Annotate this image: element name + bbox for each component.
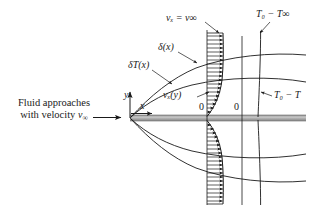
inflow-caption: Fluid approaches with velocity v∞	[14, 97, 94, 122]
velocity-profile-label: vₓ(y)	[163, 89, 181, 101]
inflow-caption-line1: Fluid approaches	[18, 97, 90, 108]
thermal-bl-thickness-label: δT(x)	[128, 59, 149, 71]
flat-plate	[130, 115, 306, 121]
temperature-curve-lower	[258, 120, 261, 205]
inflow-velocity-subscript: ∞	[82, 113, 87, 122]
y-axis-label: y	[124, 89, 128, 101]
velocity-profile-upper	[207, 33, 223, 117]
leader-delta-x	[178, 52, 197, 63]
temperature-curve-upper	[258, 31, 261, 117]
upper-boundary-layer-curves	[131, 54, 307, 117]
x-axis-label: x	[140, 100, 144, 112]
leader-delta-t-x	[152, 70, 172, 84]
velocity-bl-curve-lower	[131, 119, 307, 182]
velocity-bl-thickness-label: δ(x)	[158, 41, 174, 53]
leader-temp-far	[260, 22, 270, 33]
lower-boundary-layer-curves	[131, 119, 307, 182]
velocity-bl-curve-upper	[131, 54, 307, 117]
velocity-profile-lower	[207, 121, 223, 205]
freestream-velocity-label: vₓ = v∞	[166, 12, 197, 24]
origin-label-velocity: 0	[199, 101, 204, 113]
temperature-difference-far-label: T₀ − T∞	[256, 8, 289, 20]
origin-label-temperature: 0	[234, 101, 239, 113]
boundary-layer-figure: Fluid approaches with velocity v∞ vₓ = v…	[0, 0, 314, 212]
thermal-bl-curve-lower	[131, 119, 307, 158]
inflow-caption-line2-prefix: with velocity	[20, 109, 78, 120]
temperature-difference-local-label: T₀ − T	[274, 89, 300, 101]
leader-temp-local	[261, 92, 272, 96]
